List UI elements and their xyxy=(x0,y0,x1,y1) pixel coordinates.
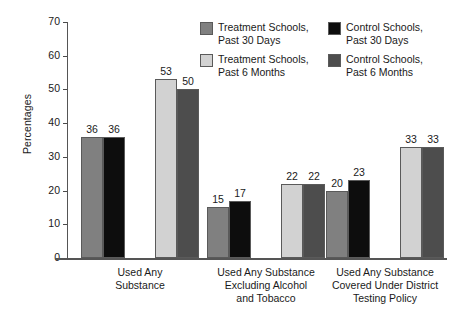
y-tick-label: 10 xyxy=(38,218,60,228)
chart-legend: Treatment Schools,Past 30 DaysControl Sc… xyxy=(200,21,450,81)
bar-value-label: 23 xyxy=(342,167,376,178)
bar xyxy=(400,147,422,258)
legend-color-swatch xyxy=(328,54,341,67)
y-tick-label: 20 xyxy=(38,185,60,195)
legend-color-swatch xyxy=(200,54,213,67)
legend-label: Treatment Schools,Past 30 Days xyxy=(218,21,309,46)
x-axis-line xyxy=(55,258,447,260)
bar-value-label: 17 xyxy=(223,188,257,199)
bar xyxy=(326,191,348,258)
y-tick-label: 0 xyxy=(38,252,60,262)
bar-chart: Percentages 010203040506070 363653501517… xyxy=(0,0,452,328)
y-axis-title: Percentages xyxy=(21,54,33,194)
bar xyxy=(177,89,199,258)
bar xyxy=(348,180,370,258)
legend-label: Treatment Schools,Past 6 Months xyxy=(218,53,309,78)
legend-label: Control Schools,Past 30 Days xyxy=(346,21,423,46)
legend-item[interactable]: Control Schools,Past 6 Months xyxy=(328,53,423,78)
legend-color-swatch xyxy=(328,22,341,35)
legend-item[interactable]: Treatment Schools,Past 30 Days xyxy=(200,21,309,46)
bar xyxy=(207,207,229,258)
x-category-label: Used Any SubstanceCovered Under District… xyxy=(305,266,452,305)
bar xyxy=(81,137,103,258)
bar xyxy=(155,79,177,258)
legend-label: Control Schools,Past 6 Months xyxy=(346,53,423,78)
y-tick-label: 70 xyxy=(38,16,60,26)
y-tick-label: 60 xyxy=(38,50,60,60)
bar xyxy=(103,137,125,258)
legend-color-swatch xyxy=(200,22,213,35)
bar xyxy=(422,147,444,258)
bar xyxy=(229,201,251,258)
legend-item[interactable]: Control Schools,Past 30 Days xyxy=(328,21,423,46)
y-tick-label: 50 xyxy=(38,83,60,93)
bar xyxy=(281,184,303,258)
legend-item[interactable]: Treatment Schools,Past 6 Months xyxy=(200,53,309,78)
y-tick-label: 30 xyxy=(38,151,60,161)
bar-value-label: 33 xyxy=(416,134,450,145)
bar xyxy=(303,184,325,258)
bar-value-label: 36 xyxy=(97,124,131,135)
y-tick-label: 40 xyxy=(38,117,60,127)
